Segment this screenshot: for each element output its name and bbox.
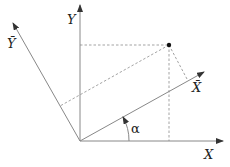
ybar-axis: [13, 23, 80, 141]
rotation-diagram: Y X Ȳ X̄ α: [0, 0, 230, 167]
angle-arc: [123, 117, 129, 141]
ybar-axis-label: Ȳ: [7, 36, 17, 51]
point-marker: [167, 43, 171, 47]
angle-label: α: [131, 121, 140, 136]
xbar-axis-label: X̄: [191, 80, 202, 95]
projection-to-xbar-axis: [169, 45, 187, 79]
y-axis-label: Y: [67, 12, 77, 27]
x-axis-label: X: [203, 147, 214, 162]
projection-lines: [60, 45, 187, 141]
projection-to-ybar-axis: [60, 45, 169, 106]
xbar-axis: [80, 72, 204, 141]
